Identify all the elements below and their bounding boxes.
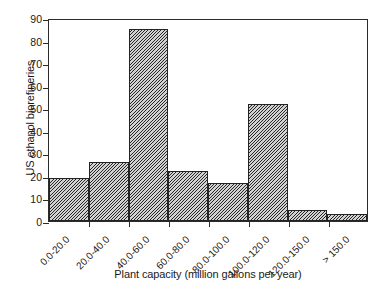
bar-slot — [49, 20, 89, 221]
x-axis-tick-labels: 0.0-20.020.0-40.040.0-60.060.0-80.080.0-… — [48, 227, 368, 267]
bar-slot — [168, 20, 208, 221]
y-axis-tick-label: 30 — [0, 149, 42, 160]
y-axis-tick-label: 80 — [0, 37, 42, 48]
histogram-bar[interactable] — [129, 29, 169, 221]
y-axis-tick — [43, 223, 49, 224]
y-axis-tick — [43, 200, 49, 201]
histogram-figure: US ethanol biorefineries 0.0-20.020.0-40… — [0, 0, 379, 290]
histogram-bar[interactable] — [168, 171, 208, 221]
y-axis-tick — [43, 20, 49, 21]
histogram-bar[interactable] — [248, 104, 288, 221]
y-axis-tick-label: 50 — [0, 104, 42, 115]
y-axis-tick-label: 20 — [0, 172, 42, 183]
histogram-bar[interactable] — [327, 214, 367, 221]
bar-slot — [208, 20, 248, 221]
bar-slot — [248, 20, 288, 221]
y-axis-tick — [43, 88, 49, 89]
y-axis-tick-label: 40 — [0, 127, 42, 138]
y-axis-tick — [43, 43, 49, 44]
y-axis-tick-label: 90 — [0, 14, 42, 25]
bar-series — [49, 20, 367, 221]
y-axis-tick-label: 10 — [0, 194, 42, 205]
x-axis-title: Plant capacity (million gallons per year… — [48, 268, 368, 280]
y-axis-tick — [43, 178, 49, 179]
y-axis-tick — [43, 110, 49, 111]
histogram-bar[interactable] — [208, 183, 248, 221]
bar-slot — [327, 20, 367, 221]
histogram-bar[interactable] — [89, 162, 129, 221]
bar-slot — [288, 20, 328, 221]
bar-slot — [89, 20, 129, 221]
y-axis-tick-label: 60 — [0, 82, 42, 93]
y-axis-tick-label: 0 — [0, 217, 42, 228]
y-axis-tick — [43, 65, 49, 66]
bar-slot — [129, 20, 169, 221]
y-axis-tick — [43, 133, 49, 134]
y-axis-tick — [43, 155, 49, 156]
histogram-bar[interactable] — [288, 210, 328, 221]
y-axis-tick-label: 70 — [0, 59, 42, 70]
histogram-bar[interactable] — [49, 178, 89, 221]
plot-area — [48, 19, 368, 222]
